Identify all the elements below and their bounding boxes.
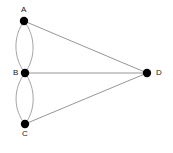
node-label-b: B — [13, 69, 18, 77]
node-b — [21, 69, 29, 77]
node-label-d: D — [156, 69, 162, 77]
graph-diagram: A B C D — [0, 0, 173, 153]
node-c — [21, 120, 29, 128]
node-layer — [20, 17, 151, 128]
edge-a-b-right — [24, 21, 33, 73]
edge-a-d — [24, 21, 147, 73]
edge-a-b-left — [16, 21, 25, 73]
edge-b-c-left — [16, 73, 25, 124]
edge-c-d — [25, 73, 147, 124]
edge-b-c-right — [25, 73, 33, 124]
node-d — [143, 69, 151, 77]
node-label-c: C — [22, 130, 28, 138]
node-label-a: A — [21, 6, 26, 14]
edge-layer — [16, 21, 147, 124]
node-a — [20, 17, 28, 25]
